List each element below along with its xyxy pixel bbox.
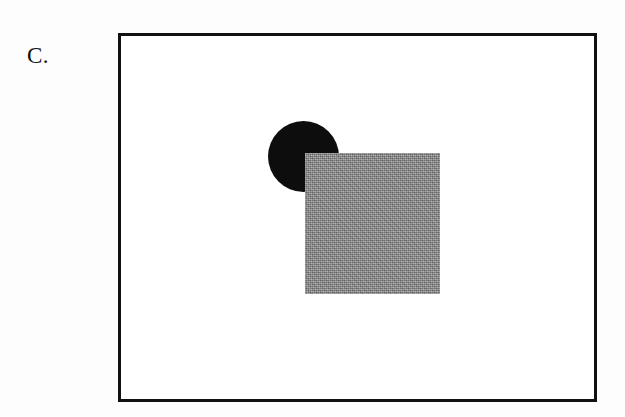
stimulus-frame bbox=[118, 33, 597, 402]
gray-square-shape bbox=[305, 153, 440, 294]
figure-root: C. bbox=[0, 0, 625, 417]
shape-stage bbox=[121, 36, 594, 399]
panel-label: C. bbox=[27, 44, 49, 67]
